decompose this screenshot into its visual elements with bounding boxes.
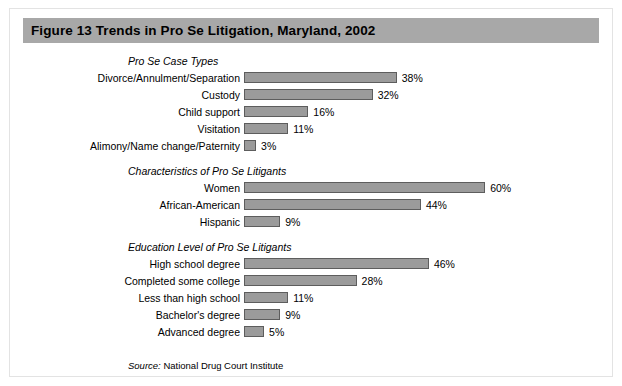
bar-row: Visitation11% bbox=[10, 120, 614, 137]
bar-row: Bachelor's degree9% bbox=[10, 306, 614, 323]
bar-category-label: African-American bbox=[10, 199, 244, 211]
bar-value-label: 38% bbox=[397, 72, 423, 84]
source-label: Source: bbox=[128, 360, 161, 371]
bar-row: Divorce/Annulment/Separation38% bbox=[10, 69, 614, 86]
bar-value-label: 3% bbox=[256, 140, 276, 152]
bar-category-label: Less than high school bbox=[10, 292, 244, 304]
bar-track: 9% bbox=[244, 306, 614, 323]
bar-row: Less than high school11% bbox=[10, 289, 614, 306]
bar-track: 46% bbox=[244, 255, 614, 272]
chart-group-heading: Characteristics of Pro Se Litigants bbox=[10, 163, 614, 179]
bar-row: Completed some college28% bbox=[10, 272, 614, 289]
bar-fill bbox=[244, 292, 288, 303]
bar-track: 11% bbox=[244, 289, 614, 306]
chart-group: Characteristics of Pro Se LitigantsWomen… bbox=[10, 163, 614, 230]
bar-track: 44% bbox=[244, 196, 614, 213]
bar-fill bbox=[244, 106, 308, 117]
bar-category-label: High school degree bbox=[10, 258, 244, 270]
bar-category-label: Divorce/Annulment/Separation bbox=[10, 72, 244, 84]
bar-row: Women60% bbox=[10, 179, 614, 196]
bar-track: 38% bbox=[244, 69, 614, 86]
bar-fill bbox=[244, 140, 256, 151]
bar-category-label: Alimony/Name change/Paternity bbox=[10, 140, 244, 152]
source-note: Source: National Drug Court Institute bbox=[128, 360, 283, 371]
bar-value-label: 32% bbox=[373, 89, 399, 101]
bar-track: 16% bbox=[244, 103, 614, 120]
bar-value-label: 9% bbox=[280, 216, 300, 228]
bar-fill bbox=[244, 182, 485, 193]
bar-category-label: Women bbox=[10, 182, 244, 194]
chart-group: Education Level of Pro Se LitigantsHigh … bbox=[10, 239, 614, 340]
bar-fill bbox=[244, 123, 288, 134]
figure-title: Figure 13 Trends in Pro Se Litigation, M… bbox=[23, 23, 375, 38]
group-spacer bbox=[10, 154, 614, 163]
bar-track: 32% bbox=[244, 86, 614, 103]
bar-fill bbox=[244, 258, 429, 269]
bar-row: Child support16% bbox=[10, 103, 614, 120]
bar-category-label: Hispanic bbox=[10, 216, 244, 228]
bar-value-label: 5% bbox=[264, 326, 284, 338]
bar-value-label: 11% bbox=[288, 123, 313, 135]
bar-category-label: Visitation bbox=[10, 123, 244, 135]
bar-track: 28% bbox=[244, 272, 614, 289]
source-value: National Drug Court Institute bbox=[161, 360, 284, 371]
bar-fill bbox=[244, 309, 280, 320]
bar-category-label: Completed some college bbox=[10, 275, 244, 287]
bar-fill bbox=[244, 199, 421, 210]
bar-value-label: 16% bbox=[308, 106, 334, 118]
bar-fill bbox=[244, 216, 280, 227]
chart-group-heading: Education Level of Pro Se Litigants bbox=[10, 239, 614, 255]
bar-track: 5% bbox=[244, 323, 614, 340]
chart-plot-area: Pro Se Case TypesDivorce/Annulment/Separ… bbox=[10, 53, 614, 340]
chart-group-heading: Pro Se Case Types bbox=[10, 53, 614, 69]
bar-category-label: Advanced degree bbox=[10, 326, 244, 338]
bar-row: Hispanic9% bbox=[10, 213, 614, 230]
bar-row: Custody32% bbox=[10, 86, 614, 103]
bar-value-label: 28% bbox=[357, 275, 383, 287]
bar-category-label: Bachelor's degree bbox=[10, 309, 244, 321]
bar-row: High school degree46% bbox=[10, 255, 614, 272]
bar-fill bbox=[244, 72, 397, 83]
bar-value-label: 60% bbox=[485, 182, 511, 194]
bar-row: African-American44% bbox=[10, 196, 614, 213]
bar-track: 60% bbox=[244, 179, 614, 196]
bar-category-label: Custody bbox=[10, 89, 244, 101]
figure-title-bar: Figure 13 Trends in Pro Se Litigation, M… bbox=[23, 18, 599, 43]
bar-value-label: 11% bbox=[288, 292, 313, 304]
bar-fill bbox=[244, 89, 373, 100]
group-spacer bbox=[10, 230, 614, 239]
bar-value-label: 44% bbox=[421, 199, 447, 211]
bar-category-label: Child support bbox=[10, 106, 244, 118]
bar-track: 9% bbox=[244, 213, 614, 230]
bar-row: Advanced degree5% bbox=[10, 323, 614, 340]
bar-value-label: 46% bbox=[429, 258, 455, 270]
bar-row: Alimony/Name change/Paternity3% bbox=[10, 137, 614, 154]
bar-fill bbox=[244, 326, 264, 337]
bar-track: 11% bbox=[244, 120, 614, 137]
chart-group: Pro Se Case TypesDivorce/Annulment/Separ… bbox=[10, 53, 614, 154]
figure-frame: Figure 13 Trends in Pro Se Litigation, M… bbox=[9, 8, 613, 377]
bar-fill bbox=[244, 275, 357, 286]
bar-track: 3% bbox=[244, 137, 614, 154]
bar-value-label: 9% bbox=[280, 309, 300, 321]
